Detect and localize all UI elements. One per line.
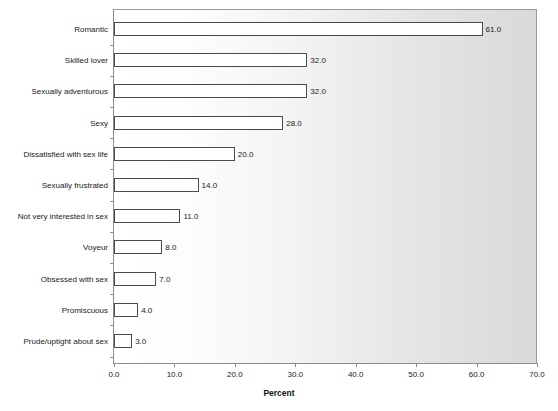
bar-row: Sexually frustrated14.0 — [0, 178, 558, 193]
x-axis-tick-label: 30.0 — [275, 370, 315, 379]
x-axis-title: Percent — [0, 388, 558, 398]
bar — [114, 178, 199, 192]
category-label: Prude/uptight about sex — [0, 334, 108, 349]
x-axis-tick — [416, 363, 417, 367]
category-label: Obsessed with sex — [0, 272, 108, 287]
x-axis-tick — [114, 363, 115, 367]
bar — [114, 272, 156, 286]
bar-value-label: 11.0 — [183, 209, 198, 224]
y-axis-tick — [110, 357, 114, 358]
bar-row: Skilled lover32.0 — [0, 53, 558, 68]
x-axis-tick — [537, 363, 538, 367]
x-axis-tick-label: 0.0 — [94, 370, 134, 379]
category-label: Romantic — [0, 22, 108, 37]
bar-value-label: 8.0 — [165, 240, 176, 255]
bar-value-label: 20.0 — [238, 147, 254, 162]
y-axis-tick — [110, 169, 114, 170]
bar-row: Dissatisfied with sex life20.0 — [0, 147, 558, 162]
bar — [114, 116, 283, 130]
bar-row: Prude/uptight about sex3.0 — [0, 334, 558, 349]
x-axis-tick-label: 70.0 — [517, 370, 557, 379]
bar — [114, 209, 180, 223]
bar — [114, 84, 307, 98]
y-axis-tick — [110, 107, 114, 108]
bar — [114, 53, 307, 67]
y-axis-tick — [110, 201, 114, 202]
bar-row: Sexy28.0 — [0, 116, 558, 131]
category-label: Dissatisfied with sex life — [0, 147, 108, 162]
bar — [114, 303, 138, 317]
bar-value-label: 14.0 — [202, 178, 218, 193]
y-axis-tick — [110, 45, 114, 46]
x-axis-tick — [477, 363, 478, 367]
category-label: Promiscuous — [0, 303, 108, 318]
bar-value-label: 61.0 — [486, 22, 502, 37]
y-axis-tick — [110, 325, 114, 326]
y-axis-tick — [110, 263, 114, 264]
bar-row: Not very interested in sex11.0 — [0, 209, 558, 224]
bar-value-label: 4.0 — [141, 303, 152, 318]
x-axis-tick — [174, 363, 175, 367]
y-axis-tick — [110, 138, 114, 139]
bar-value-label: 7.0 — [159, 272, 170, 287]
category-label: Sexy — [0, 116, 108, 131]
category-label: Sexually frustrated — [0, 178, 108, 193]
category-label: Sexually adventurous — [0, 84, 108, 99]
bar — [114, 334, 132, 348]
category-label: Skilled lover — [0, 53, 108, 68]
x-axis-line — [113, 363, 538, 364]
y-axis-tick — [110, 232, 114, 233]
x-axis-tick — [235, 363, 236, 367]
x-axis-tick-label: 50.0 — [396, 370, 436, 379]
bar-row: Sexually adventurous32.0 — [0, 84, 558, 99]
bar-row: Voyeur8.0 — [0, 240, 558, 255]
bar-row: Promiscuous4.0 — [0, 303, 558, 318]
bar-value-label: 32.0 — [310, 53, 326, 68]
x-axis-tick-label: 20.0 — [215, 370, 255, 379]
category-label: Voyeur — [0, 240, 108, 255]
y-axis-tick — [110, 294, 114, 295]
x-axis-tick — [356, 363, 357, 367]
x-axis-tick-label: 40.0 — [336, 370, 376, 379]
x-axis-tick — [295, 363, 296, 367]
category-label: Not very interested in sex — [0, 209, 108, 224]
bar — [114, 240, 162, 254]
bar-value-label: 32.0 — [310, 84, 326, 99]
bar — [114, 147, 235, 161]
bar-value-label: 3.0 — [135, 334, 146, 349]
bar-row: Romantic61.0 — [0, 22, 558, 37]
bar-value-label: 28.0 — [286, 116, 302, 131]
y-axis-tick — [110, 76, 114, 77]
bar — [114, 22, 483, 36]
bar-row: Obsessed with sex7.0 — [0, 272, 558, 287]
x-axis-tick-label: 60.0 — [457, 370, 497, 379]
bar-chart: Romantic61.0Skilled lover32.0Sexually ad… — [0, 0, 558, 411]
x-axis-tick-label: 10.0 — [154, 370, 194, 379]
